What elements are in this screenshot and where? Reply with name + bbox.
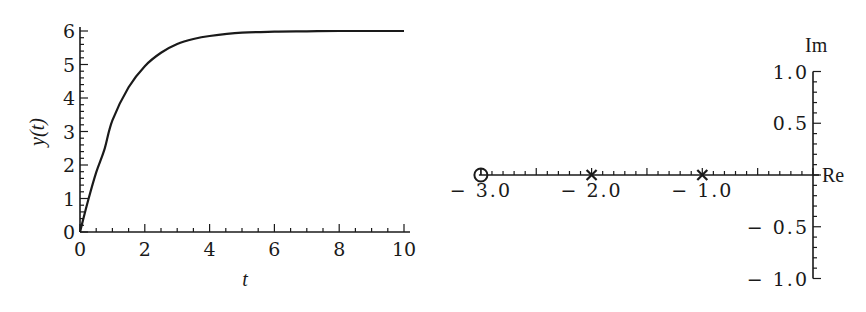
y-tick-label: 2 xyxy=(63,154,75,176)
re-tick-label: − 1.0 xyxy=(671,179,733,201)
pole-zero-axes xyxy=(479,72,819,279)
im-tick-label: 1.0 xyxy=(773,61,809,83)
x-tick-label: 6 xyxy=(268,238,280,260)
re-tick-labels: − 3.0− 2.0− 1.0 xyxy=(450,179,734,201)
y-tick-label: 3 xyxy=(63,121,75,143)
im-tick-label: − 0.5 xyxy=(747,216,809,238)
step-response-curve xyxy=(80,31,404,232)
step-response-plot: 0123456 0246810 t y(t) xyxy=(26,20,416,290)
pole-zero-plot: − 3.0− 2.0− 1.0 1.00.5− 0.5− 1.0 Re Im xyxy=(450,34,845,290)
x-tick-label: 8 xyxy=(333,238,345,260)
x-tick-label: 0 xyxy=(74,238,86,260)
x-tick-labels: 0246810 xyxy=(74,238,416,260)
chart-canvas: 0123456 0246810 t y(t) − 3.0− 2.0− 1.0 1… xyxy=(0,0,866,312)
re-tick-label: − 2.0 xyxy=(561,179,623,201)
im-tick-label: − 1.0 xyxy=(747,268,809,290)
y-tick-label: 1 xyxy=(63,188,75,210)
im-tick-label: 0.5 xyxy=(773,112,809,134)
y-tick-label: 5 xyxy=(63,54,75,76)
im-axis-title: Im xyxy=(805,34,828,56)
x-tick-label: 10 xyxy=(392,238,416,260)
y-tick-label: 6 xyxy=(63,20,75,42)
y-tick-label: 4 xyxy=(63,87,75,109)
re-axis-title: Re xyxy=(822,164,844,186)
x-tick-label: 4 xyxy=(204,238,216,260)
x-axis-title: t xyxy=(242,268,248,290)
step-response-ticks xyxy=(80,31,404,232)
x-tick-label: 2 xyxy=(139,238,151,260)
y-tick-labels: 0123456 xyxy=(63,20,75,243)
y-axis-title: y(t) xyxy=(26,118,49,148)
step-response-axes xyxy=(80,27,410,232)
